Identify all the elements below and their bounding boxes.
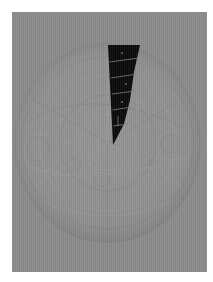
plot-panel xyxy=(12,12,207,272)
highlighted-sector xyxy=(12,12,207,272)
figure-root: 100 xyxy=(0,0,213,282)
